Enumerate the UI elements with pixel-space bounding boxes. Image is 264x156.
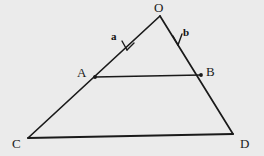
vector-label-b: b [183,27,189,38]
vertex-label-D: D [240,137,250,150]
point-B-marker [199,73,203,77]
vector-b-arrow [173,34,182,45]
point-A-marker [93,75,97,79]
vector-label-a: a [111,31,117,42]
vertex-label-C: C [12,137,21,150]
vertex-label-B: B [206,65,215,78]
segment-CD [28,134,233,138]
figure-canvas: O A B C D a b [0,0,264,156]
vertex-label-A: A [77,66,87,79]
geometry-drawing [0,0,264,156]
segment-AB [95,75,201,77]
vertex-label-O: O [154,1,164,14]
